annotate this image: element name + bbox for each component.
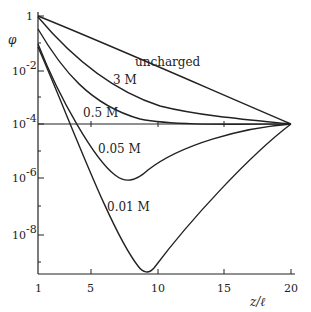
y-tick-label-1e-2: 10-2 [12, 59, 37, 78]
svg-text:-8: -8 [26, 223, 37, 236]
x-tick-label-1: 1 [35, 282, 42, 295]
label-0.01M: 0.01 M [107, 200, 150, 214]
label-0.05M: 0.05 M [98, 142, 141, 156]
svg-text:10: 10 [12, 65, 26, 78]
svg-text:-2: -2 [26, 59, 37, 72]
label-0.5M: 0.5 M [83, 106, 118, 120]
x-axis-label: z/ℓ [249, 295, 265, 309]
svg-text:10: 10 [12, 229, 26, 242]
log-potential-chart: 1 10-2 10-4 10-6 10-8 1 5 10 15 20 φ z/ℓ… [0, 0, 311, 312]
x-tick-label-10: 10 [151, 282, 165, 295]
x-ticks [91, 269, 291, 274]
svg-text:-6: -6 [26, 166, 37, 179]
x-tick-label-20: 20 [284, 282, 298, 295]
svg-text:-4: -4 [26, 112, 37, 125]
label-3M: 3 M [113, 73, 137, 87]
y-tick-label-1: 1 [26, 10, 33, 23]
svg-text:10: 10 [12, 172, 26, 185]
y-tick-label-1e-6: 10-6 [12, 166, 37, 185]
label-uncharged: uncharged [135, 55, 201, 69]
curve-0.5M [38, 29, 291, 124]
svg-text:10: 10 [12, 118, 26, 131]
x-tick-label-5: 5 [87, 282, 94, 295]
y-tick-label-1e-8: 10-8 [12, 223, 37, 242]
x-tick-label-15: 15 [217, 282, 231, 295]
y-axis-label: φ [8, 33, 17, 47]
y-tick-label-1e-4: 10-4 [12, 112, 37, 131]
